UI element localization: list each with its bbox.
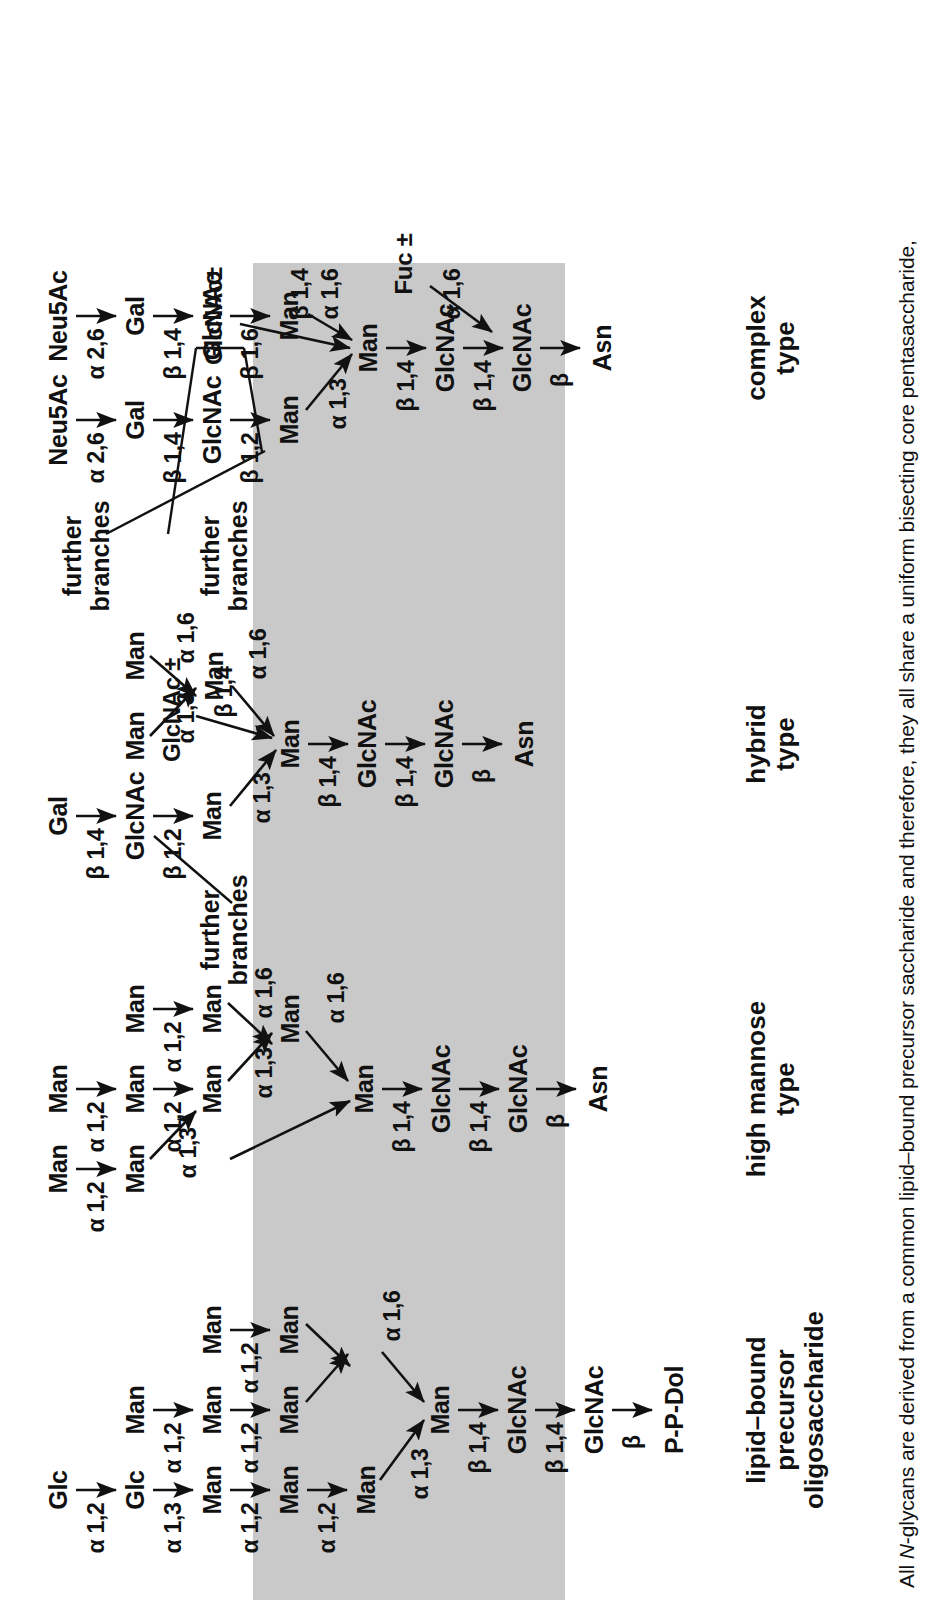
precursor-link-a13-2: α 1,3 [409, 1448, 432, 1499]
hm-b3-man-outer: Man [123, 984, 148, 1033]
complex-core-glcnac-2: GlcNAc [510, 304, 535, 393]
hm-core-link-a16: α 1,6 [325, 972, 348, 1023]
precursor-link-b14-2: β 1,4 [544, 1423, 567, 1474]
complex-antB-link-b14: β 1,4 [162, 329, 185, 380]
hm-b2-link-a12-2: α 1,2 [162, 1101, 185, 1152]
hm-b2-man-outer: Man [46, 1064, 71, 1113]
complex-antA-gal: Gal [123, 400, 148, 439]
precursor-link-b-a12-1: α 1,2 [162, 1422, 185, 1473]
complex-fucose: Fuc ± [392, 233, 416, 294]
complex-antB-link-b16: β 1,6 [239, 329, 262, 380]
complex-core-link-beta: β [549, 373, 572, 387]
hybrid-core-link-a16: α 1,6 [247, 628, 270, 679]
precursor-link-a12-3: α 1,2 [316, 1502, 339, 1553]
precursor-link-b-a12-2: α 1,2 [239, 1422, 262, 1473]
hybrid-core-glcnac-1: GlcNAc [355, 700, 380, 789]
hm-b2-link-a12-1: α 1,2 [85, 1101, 108, 1152]
hybrid-arm-man-a13: Man [123, 711, 148, 760]
hybrid-antenna-link-b14: β 1,4 [85, 829, 108, 880]
figure-caption: All N-glycans are derived from a common … [896, 240, 917, 1588]
complex-further-branches-a-line1: further [196, 500, 224, 611]
complex-further-branches-b-line2: branches [86, 500, 114, 611]
n-glycan-structures-figure: Glc α 1,2 Glc α 1,3 Man α 1,2 Man α 1,2 … [0, 0, 944, 1616]
hm-b3-link-a16: α 1,6 [253, 967, 276, 1018]
complex-core-link-b14-1: β 1,4 [395, 361, 418, 412]
hybrid-core-glcnac-2: GlcNAc [432, 700, 457, 789]
complex-bisecting-glcnac: GlcNAc± [202, 267, 226, 365]
complex-fucose-link-a16: α 1,6 [441, 268, 464, 319]
complex-antB-link-a16: α 1,6 [319, 268, 342, 319]
complex-antB-neu5ac: Neu5Ac [46, 270, 71, 361]
complex-antA-link-a26: α 2,6 [85, 432, 108, 483]
hybrid-further-branches-line2: branches [224, 874, 252, 985]
precursor-glc-1: Glc [46, 1470, 71, 1509]
precursor-glc-2: Glc [123, 1470, 148, 1509]
precursor-man-c-1: Man [200, 1305, 225, 1354]
precursor-man-c-2: Man [277, 1305, 302, 1354]
complex-core-man: Man [356, 323, 381, 372]
group-label-complex-line1: complex [742, 295, 771, 401]
complex-antA-link-b12: β 1,2 [239, 433, 262, 484]
complex-antA-link-b14: β 1,4 [162, 433, 185, 484]
hybrid-core-man-lower: Man [278, 719, 303, 768]
hm-core-asn: Asn [586, 1066, 611, 1112]
caption-italic-n: N [895, 1544, 918, 1559]
precursor-link-beta: β [621, 1435, 644, 1449]
hm-b1-man-inner: Man [123, 1144, 148, 1193]
complex-further-branches-b: further branches [58, 500, 114, 611]
hybrid-further-branches: further branches [196, 874, 252, 985]
hybrid-antenna-link-b12: β 1,2 [162, 829, 185, 880]
complex-antA-neu5ac: Neu5Ac [46, 374, 71, 465]
hm-b3-link-a12: α 1,2 [162, 1021, 185, 1072]
group-label-high-mannose-line1: high mannose [742, 1001, 771, 1177]
precursor-man-top-3: Man [354, 1465, 379, 1514]
hm-b3-man-inner: Man [200, 984, 225, 1033]
group-label-high-mannose: high mannose type [742, 1001, 800, 1177]
hybrid-arm-man-a16: Man [123, 631, 148, 680]
complex-further-branches-b-line1: further [58, 500, 86, 611]
hybrid-antenna-man: Man [200, 791, 225, 840]
hybrid-antenna-glcnac: GlcNAc [123, 772, 148, 861]
hm-b2-link-a13: α 1,3 [253, 1047, 276, 1098]
precursor-link-a16: α 1,6 [381, 1290, 404, 1341]
hybrid-core-asn: Asn [512, 721, 537, 767]
hm-b1-link-a12: α 1,2 [85, 1181, 108, 1232]
complex-bisecting-link-b14: β 1,4 [289, 269, 312, 320]
precursor-core-man-1: Man [428, 1385, 453, 1434]
group-label-precursor-line2: precursor [771, 1311, 800, 1509]
group-label-hybrid-line2: type [771, 704, 800, 783]
precursor-ppdol: P-P-Dol [662, 1366, 687, 1454]
complex-further-branches-a-line2: branches [224, 500, 252, 611]
group-label-hybrid: hybrid type [742, 704, 800, 783]
hm-core-link-b14-1: β 1,4 [391, 1102, 414, 1153]
complex-antB-gal: Gal [123, 296, 148, 335]
group-label-precursor-line3: oligosaccharide [800, 1311, 829, 1509]
hybrid-antenna-link-a13: α 1,3 [251, 772, 274, 823]
group-label-hybrid-line1: hybrid [742, 704, 771, 783]
precursor-man-b-2: Man [200, 1385, 225, 1434]
hybrid-arm-link-a16-outer: α 1,6 [175, 612, 198, 663]
complex-antA-glcnac: GlcNAc [200, 376, 225, 465]
hm-core-link-beta: β [545, 1114, 568, 1128]
complex-further-branches-a: further branches [196, 500, 252, 611]
precursor-link-a12-1: α 1,2 [85, 1502, 108, 1553]
complex-antA-link-a13: α 1,3 [327, 378, 350, 429]
hybrid-further-branches-line1: further [196, 874, 224, 985]
complex-core-asn: Asn [590, 325, 615, 371]
precursor-man-top-2: Man [277, 1465, 302, 1514]
precursor-link-c-a12: α 1,2 [239, 1342, 262, 1393]
hm-b1-man-outer: Man [46, 1144, 71, 1193]
complex-core-link-b14-2: β 1,4 [472, 361, 495, 412]
precursor-core-glcnac-2: GlcNAc [582, 1366, 607, 1455]
hybrid-core-link-b14-1: β 1,4 [317, 757, 340, 808]
complex-antB-link-a26: α 2,6 [85, 328, 108, 379]
complex-antA-man: Man [277, 395, 302, 444]
hybrid-bisecting-link-b14: β 1,4 [213, 667, 236, 718]
hm-core-glcnac-2: GlcNAc [506, 1045, 531, 1134]
precursor-link-a13-1: α 1,3 [162, 1502, 185, 1553]
hm-core-link-b14-2: β 1,4 [468, 1102, 491, 1153]
hybrid-core-link-b14-2: β 1,4 [394, 757, 417, 808]
group-label-precursor-line1: lipid–bound [742, 1311, 771, 1509]
group-label-precursor: lipid–bound precursor oligosaccharide [742, 1311, 829, 1509]
hm-core-man-lower: Man [352, 1064, 377, 1113]
